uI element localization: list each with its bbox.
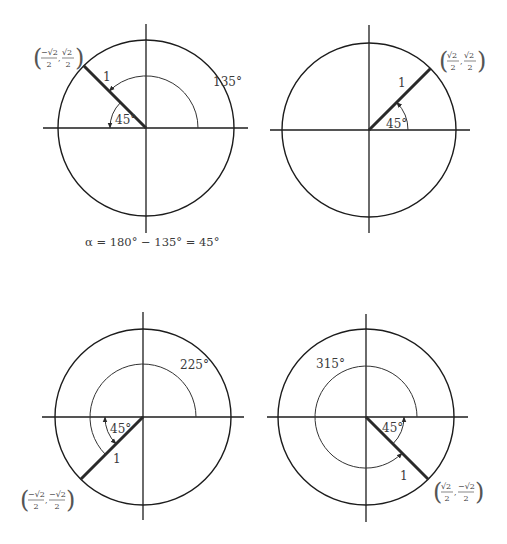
panel-quadrant-2: 135° 45° 1 ( −√2 2 , √2 2 ) (33, 24, 248, 233)
reference-angle-label: 45° (386, 117, 407, 131)
point-coordinates: ( −√2 2 , √2 2 ) (33, 44, 84, 72)
point-coordinates: ( √2 2 , −√2 2 ) (433, 478, 484, 506)
radius-length-label: 1 (113, 452, 121, 466)
panel-quadrant-3: 225° 45° 1 ( −√2 2 , −√2 2 ) (20, 312, 244, 520)
y-denominator: 2 (55, 502, 60, 511)
reference-angle-figure: 135° 45° 1 ( −√2 2 , √2 2 ) 45° 1 (0, 0, 507, 544)
angle-label: 135° (213, 75, 242, 89)
reference-angle-formula: α = 180° − 135° = 45° (85, 235, 219, 249)
x-numerator: √2 (447, 51, 457, 60)
y-denominator: 2 (468, 63, 473, 72)
y-numerator: √2 (62, 48, 72, 57)
right-paren: ) (66, 486, 75, 514)
comma: , (45, 496, 48, 505)
x-denominator: 2 (34, 502, 39, 511)
reference-angle-label: 45° (115, 113, 136, 127)
comma: , (454, 488, 457, 497)
x-numerator: −√2 (28, 490, 45, 499)
comma: , (58, 54, 61, 63)
y-denominator: 2 (66, 60, 71, 69)
x-numerator: −√2 (41, 48, 58, 57)
reference-angle-label: 45° (110, 422, 131, 436)
point-coordinates: ( −√2 2 , −√2 2 ) (20, 486, 75, 514)
reference-angle-label: 45° (382, 421, 403, 435)
comma: , (460, 57, 463, 66)
radius-length-label: 1 (398, 76, 406, 90)
panel-quadrant-1: 45° 1 ( √2 2 , √2 2 ) (270, 25, 486, 233)
y-denominator: 2 (464, 494, 469, 503)
unit-circle-diagrams: 135° 45° 1 ( −√2 2 , √2 2 ) 45° 1 (0, 0, 507, 544)
right-paren: ) (475, 478, 484, 506)
x-denominator: 2 (47, 60, 52, 69)
radius-length-label: 1 (400, 469, 408, 483)
right-paren: ) (75, 44, 84, 72)
radius-length-label: 1 (103, 70, 111, 84)
angle-label: 225° (180, 358, 209, 372)
y-numerator: −√2 (458, 482, 475, 491)
angle-label: 315° (316, 357, 345, 371)
right-paren: ) (477, 47, 486, 75)
panel-quadrant-4: 315° 45° 1 ( √2 2 , −√2 2 ) (267, 314, 484, 522)
y-numerator: √2 (464, 51, 474, 60)
point-coordinates: ( √2 2 , √2 2 ) (439, 47, 486, 75)
x-denominator: 2 (451, 63, 456, 72)
x-denominator: 2 (445, 494, 450, 503)
y-numerator: −√2 (49, 490, 66, 499)
x-numerator: √2 (441, 482, 451, 491)
